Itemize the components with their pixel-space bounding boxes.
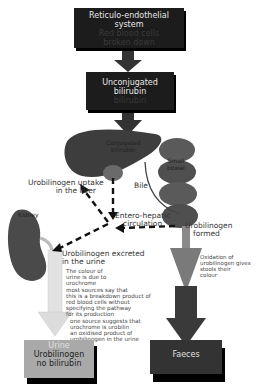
faeces-arrow-icon — [166, 226, 206, 346]
box-title-2: bilirubin — [86, 87, 174, 96]
reticulo-endothelial-box: Reticulo-endothelial system Red blood ce… — [74, 8, 184, 48]
urine-line1: Urobilinogen — [24, 350, 94, 359]
unconjugated-bilirubin-box: Unconjugated bilirubin bilirubin — [86, 72, 174, 110]
faeces-box: Faeces — [150, 340, 222, 374]
urob-formed-line2: formed — [185, 230, 232, 238]
oxidation-note: Oxidation of urobilinogen gives stools t… — [200, 254, 251, 278]
urine-colour-note: The colour of urine is due to urochrome … — [66, 268, 151, 342]
box-title-2: system — [74, 20, 184, 29]
liver-label-line2: bilirubin — [106, 147, 140, 154]
kidney-label: Kidney — [18, 212, 38, 219]
box-subtitle-2: broken down — [74, 38, 184, 47]
small-bowel-label-line2: bowel — [167, 165, 185, 172]
urobilinogen-formed-label: Urobilinogen formed — [185, 222, 232, 238]
excreted-label: Urobilinogen excreted in the urine — [62, 250, 145, 266]
urine-line2: no bilirubin — [24, 359, 94, 368]
excreted-label-line2: in the urine — [62, 258, 145, 266]
box-title: Unconjugated — [86, 72, 174, 87]
arrow-down-icon — [114, 48, 142, 72]
uptake-label-line2: in the liver — [28, 187, 104, 195]
box-title: Reticulo-endothelial — [74, 8, 184, 20]
liver-label: Conjugated bilirubin — [106, 140, 140, 153]
small-bowel-label: Small bowel — [167, 158, 185, 171]
box-subtitle: bilirubin — [86, 96, 174, 105]
urine-box: Urine Urobilinogen no bilirubin — [24, 340, 94, 378]
entero-label-line2: circulation — [115, 220, 170, 228]
faeces-title: Faeces — [150, 340, 222, 359]
urine-note-line: one source suggests that — [66, 318, 151, 324]
oxidation-line: colour — [200, 272, 251, 278]
box-subtitle: Red blood cells — [74, 29, 184, 38]
entero-hepatic-label: Entero-hepatic circulation — [115, 212, 170, 228]
bile-label: Bile — [134, 182, 148, 190]
urine-title: Urine — [24, 340, 94, 350]
kidney-icon — [8, 209, 52, 280]
uptake-label: Urobilinogen uptake in the liver — [28, 179, 104, 195]
